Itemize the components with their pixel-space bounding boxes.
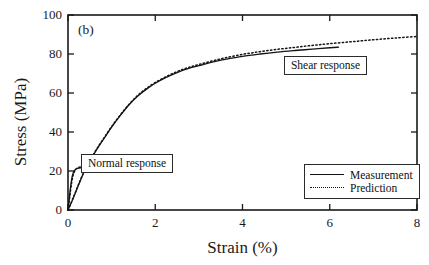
annotation-normal-response: Normal response (81, 154, 173, 173)
x-tick-label: 8 (402, 215, 429, 231)
annotation-shear-response: Shear response (284, 56, 367, 75)
legend-item-measurement: Measurement (310, 168, 413, 181)
panel-label: (b) (78, 22, 94, 38)
legend-line-dotted-icon (310, 187, 344, 189)
x-tick-label: 6 (315, 215, 345, 231)
x-tick-label: 2 (140, 215, 170, 231)
x-tick-label: 0 (53, 215, 83, 231)
y-tick-label: 80 (28, 46, 62, 62)
legend-line-solid-icon (310, 174, 344, 176)
y-tick-label: 100 (28, 7, 62, 23)
y-tick-label: 20 (28, 163, 62, 179)
x-tick-label: 4 (228, 215, 258, 231)
legend-label-prediction: Prediction (350, 182, 397, 194)
y-tick-label: 60 (28, 85, 62, 101)
y-tick-label: 40 (28, 124, 62, 140)
x-axis-title: Strain (%) (68, 238, 417, 258)
legend-item-prediction: Prediction (310, 181, 413, 194)
chart-legend: Measurement Prediction (304, 164, 420, 199)
legend-label-measurement: Measurement (350, 169, 413, 181)
